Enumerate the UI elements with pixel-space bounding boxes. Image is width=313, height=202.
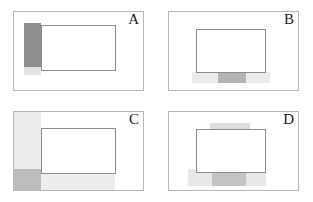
panel-a: A <box>13 11 144 91</box>
panel-b-rect <box>196 29 266 73</box>
panel-b-label: B <box>284 12 294 27</box>
panel-d-label: D <box>283 112 294 127</box>
panel-b-band-1 <box>218 72 246 83</box>
panel-a-label: A <box>128 12 139 27</box>
panel-b: B <box>168 11 299 91</box>
panel-c-label: C <box>129 112 139 127</box>
figure-canvas: A B C D <box>0 0 313 202</box>
panel-c-rect <box>41 128 116 174</box>
panel-a-band-1 <box>24 67 41 75</box>
panel-d: D <box>168 111 299 191</box>
panel-d-rect <box>196 129 266 173</box>
panel-a-band-0 <box>24 23 41 67</box>
panel-c-band-2 <box>13 169 41 190</box>
panel-a-rect <box>41 25 116 71</box>
panel-c: C <box>13 111 144 191</box>
